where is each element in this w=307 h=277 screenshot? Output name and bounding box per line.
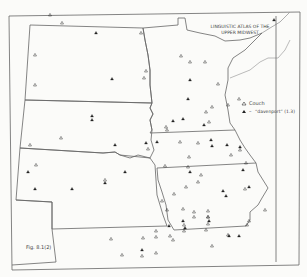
linguistic-atlas-map: LINGUISTIC ATLAS OF THE UPPER MIDWEST Co…: [0, 0, 307, 277]
open-triangle-marker: [173, 192, 176, 195]
filled-triangle-marker: [189, 78, 192, 81]
open-triangle-marker: [211, 244, 214, 247]
open-triangle-marker: [35, 163, 38, 166]
open-triangle-marker: [172, 238, 175, 241]
atlas-title-line2: UPPER MIDWEST: [221, 30, 259, 35]
open-triangle-marker: [155, 251, 158, 254]
open-triangle-marker: [197, 141, 200, 144]
filled-triangle-marker: [27, 170, 30, 173]
open-triangle-marker: [188, 155, 191, 158]
open-triangle-marker: [207, 209, 210, 212]
filled-triangle-marker: [242, 168, 245, 171]
lake-michigan-shore: [230, 40, 290, 78]
open-triangle-marker: [207, 215, 210, 218]
open-triangle-marker: [34, 83, 37, 86]
filled-triangle-marker: [111, 77, 114, 80]
state-minnesota: [143, 18, 262, 133]
open-triangle-marker: [185, 185, 188, 188]
open-triangle-marker: [142, 236, 145, 239]
filled-triangle-marker: [222, 189, 225, 192]
filled-triangle-marker: [172, 119, 175, 122]
filled-triangle-marker: [95, 31, 98, 34]
open-triangle-marker: [121, 253, 124, 256]
open-triangle-marker: [200, 173, 203, 176]
legend-filled-triangle-icon: [242, 110, 246, 113]
open-triangle-marker: [244, 187, 247, 190]
open-triangle-marker: [34, 53, 37, 56]
open-triangle-marker: [166, 128, 169, 131]
fig-label-box: [12, 200, 56, 265]
legend-open-triangle-icon: [242, 102, 246, 105]
filled-triangle-marker: [203, 123, 206, 126]
filled-triangle-marker: [210, 138, 213, 141]
filled-triangle-marker: [182, 219, 185, 222]
filled-triangle-marker: [124, 170, 127, 173]
open-triangle-marker: [183, 223, 186, 226]
open-triangle-marker: [141, 254, 144, 257]
filled-triangle-marker: [208, 219, 211, 222]
open-triangle-marker: [211, 105, 214, 108]
open-triangle-marker: [60, 136, 63, 139]
open-triangle-marker: [207, 222, 210, 225]
open-triangle-marker: [155, 235, 158, 238]
figure-label: Fig. 8.1(2): [26, 244, 51, 251]
filled-triangle-marker: [114, 143, 117, 146]
open-triangle-marker: [238, 97, 241, 100]
marker-layer: [27, 13, 276, 257]
filled-triangle-marker: [238, 234, 241, 237]
state-north-dakota: [25, 25, 152, 103]
open-triangle-marker: [140, 31, 143, 34]
open-triangle-marker: [180, 54, 183, 57]
open-triangle-marker: [165, 125, 168, 128]
filled-triangle-marker: [225, 194, 228, 197]
open-triangle-marker: [230, 153, 233, 156]
filled-triangle-marker: [184, 226, 187, 229]
open-triangle-marker: [145, 69, 148, 72]
filled-triangle-marker: [248, 185, 251, 188]
filled-triangle-marker: [211, 144, 214, 147]
open-triangle-marker: [182, 207, 185, 210]
filled-triangle-marker: [71, 187, 74, 190]
open-triangle-marker: [179, 140, 182, 143]
open-triangle-marker: [110, 237, 113, 240]
filled-triangle-marker: [91, 114, 94, 117]
state-nebraska: [16, 148, 167, 229]
filled-triangle-marker: [228, 234, 231, 237]
open-triangle-marker: [143, 76, 146, 79]
filled-triangle-marker: [273, 18, 276, 21]
open-triangle-marker: [147, 147, 150, 150]
legend-label-davenport: “davenport” (1.3): [255, 109, 295, 114]
border-wisconsin: [235, 130, 256, 163]
legend-label-couch: Couch: [249, 100, 265, 106]
open-triangle-marker: [217, 82, 220, 85]
legend: Couch – “davenport” (1.3): [242, 100, 295, 114]
filled-triangle-marker: [182, 117, 185, 120]
filled-triangle-marker: [187, 97, 190, 100]
open-triangle-marker: [29, 143, 32, 146]
open-triangle-marker: [239, 148, 242, 151]
legend-dash: –: [249, 108, 252, 114]
filled-triangle-marker: [141, 248, 144, 251]
filled-triangle-marker: [239, 145, 242, 148]
filled-triangle-marker: [91, 118, 94, 121]
open-triangle-marker: [155, 229, 158, 232]
open-triangle-marker: [161, 199, 164, 202]
filled-triangle-marker: [145, 141, 148, 144]
filled-triangle-marker: [156, 140, 159, 143]
atlas-title-line1: LINGUISTIC ATLAS OF THE: [211, 24, 270, 29]
filled-triangle-marker: [226, 143, 229, 146]
open-triangle-marker: [205, 228, 208, 231]
filled-triangle-marker: [189, 170, 192, 173]
open-triangle-marker: [61, 21, 64, 24]
open-triangle-marker: [193, 215, 196, 218]
open-triangle-marker: [189, 60, 192, 63]
open-triangle-marker: [164, 164, 167, 167]
open-triangle-marker: [193, 210, 196, 213]
open-triangle-marker: [205, 110, 208, 113]
filled-triangle-marker: [168, 224, 171, 227]
filled-triangle-marker: [104, 181, 107, 184]
open-triangle-marker: [264, 208, 267, 211]
state-iowa: [157, 163, 268, 230]
open-triangle-marker: [104, 178, 107, 181]
open-triangle-marker: [208, 120, 211, 123]
